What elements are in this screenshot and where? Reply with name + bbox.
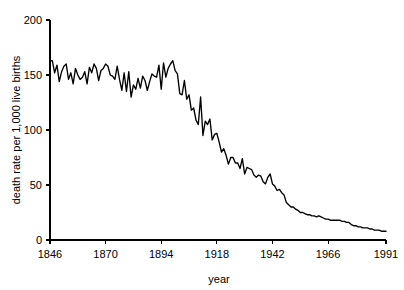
chart-container: 050100150200 184618701894191819421966199… — [0, 0, 404, 290]
data-line-infant-death-rate — [50, 61, 386, 232]
y-tick-label: 200 — [24, 14, 42, 26]
y-axis-group: 050100150200 — [24, 14, 50, 246]
y-tick-label: 50 — [30, 179, 42, 191]
y-tick-label: 150 — [24, 69, 42, 81]
y-tick-label: 0 — [36, 234, 42, 246]
y-axis-title: death rate per 1,000 live births — [10, 55, 22, 204]
x-axis-group: 1846187018941918194219661991 — [38, 240, 398, 260]
infant-mortality-line-chart: 050100150200 184618701894191819421966199… — [0, 0, 404, 290]
x-tick-label: 1894 — [149, 248, 173, 260]
x-tick-label: 1846 — [38, 248, 62, 260]
x-tick-label: 1918 — [205, 248, 229, 260]
x-tick-label: 1966 — [316, 248, 340, 260]
x-tick-label: 1942 — [260, 248, 284, 260]
y-tick-label: 100 — [24, 124, 42, 136]
x-tick-group: 1846187018941918194219661991 — [38, 240, 398, 260]
x-tick-label: 1870 — [93, 248, 117, 260]
x-axis-title: year — [208, 273, 230, 285]
y-tick-group: 050100150200 — [24, 14, 50, 246]
x-tick-label: 1991 — [374, 248, 398, 260]
